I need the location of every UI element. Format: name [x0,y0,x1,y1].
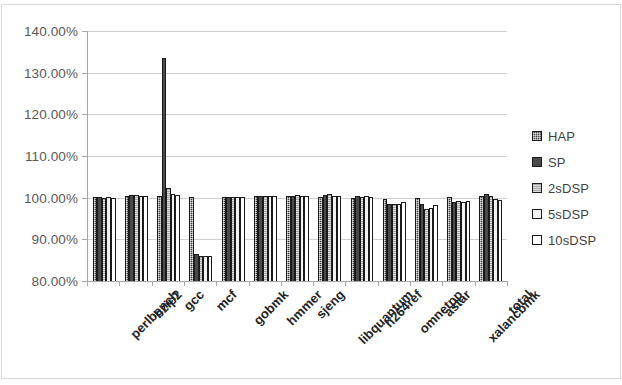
bar-group [410,31,442,281]
y-axis-tick-label: 140.00% [24,24,78,39]
bar-group [443,31,475,281]
bar [143,196,148,281]
x-tick-mark [410,281,411,286]
y-tick-mark [82,198,87,199]
x-tick-mark [87,281,88,286]
plot-area: 80.00%90.00%100.00%110.00%120.00%130.00%… [87,31,507,281]
legend-swatch-icon [532,183,542,193]
legend-item[interactable]: HAP [532,123,618,149]
bar [466,201,471,281]
y-axis-tick-label: 90.00% [32,232,78,247]
x-tick-mark [216,281,217,286]
bar-group [120,31,152,281]
bar [208,256,213,281]
y-axis-tick-label: 120.00% [24,107,78,122]
legend-swatch-icon [532,157,542,167]
x-tick-mark [507,281,508,286]
y-axis-tick-label: 80.00% [32,274,78,289]
bar [272,196,277,281]
x-tick-mark [313,281,314,286]
y-tick-mark [82,239,87,240]
x-tick-mark [378,281,379,286]
bar [498,200,503,281]
legend-swatch-icon [532,131,542,141]
bar [175,195,180,281]
y-tick-mark [82,31,87,32]
bar [337,196,342,281]
y-axis-tick-label: 110.00% [25,149,78,164]
bar [111,198,116,281]
chart-container: 80.00%90.00%100.00%110.00%120.00%130.00%… [1,4,621,379]
bars-layer [88,31,507,281]
bar [401,202,406,281]
bar-group [185,31,217,281]
x-tick-mark [475,281,476,286]
legend-label: 5sDSP [548,207,589,222]
bar-group [475,31,507,281]
legend-label: HAP [548,129,575,144]
bar [304,196,309,281]
x-tick-mark [152,281,153,286]
x-axis-tick-label: astar [441,287,474,320]
legend-swatch-icon [532,235,542,245]
bar-group [314,31,346,281]
y-tick-mark [82,156,87,157]
bar-group [88,31,120,281]
x-tick-mark [249,281,250,286]
x-axis-labels: perlbenchbzip2gccmcfgobmkhmmersjenglibqu… [87,287,507,372]
y-tick-mark [82,114,87,115]
legend-swatch-icon [532,209,542,219]
legend-item[interactable]: 10sDSP [532,227,618,253]
x-tick-mark [119,281,120,286]
legend-item[interactable]: 5sDSP [532,201,618,227]
x-axis-tick-label: gcc [180,287,206,313]
x-axis-tick-label: bzip2 [151,287,185,321]
chart-legend: HAPSP2sDSP5sDSP10sDSP [532,123,618,253]
bar [433,205,438,281]
bar [369,197,374,281]
bar-group [346,31,378,281]
bar-group [281,31,313,281]
x-tick-mark [281,281,282,286]
x-tick-mark [184,281,185,286]
bar-group [378,31,410,281]
legend-label: 2sDSP [548,181,589,196]
x-axis-tick-label: mcf [213,287,240,314]
bar-group [249,31,281,281]
y-axis-tick-label: 100.00% [24,190,78,205]
x-axis-tick-label: gobmk [251,287,292,328]
legend-item[interactable]: 2sDSP [532,175,618,201]
x-tick-mark [442,281,443,286]
x-tick-mark [345,281,346,286]
plot-inner [87,31,507,281]
legend-label: SP [548,155,566,170]
bar [240,197,245,281]
y-tick-mark [82,73,87,74]
legend-item[interactable]: SP [532,149,618,175]
bar-group [152,31,184,281]
legend-label: 10sDSP [548,233,596,248]
y-axis-tick-label: 130.00% [24,65,78,80]
bar-group [217,31,249,281]
